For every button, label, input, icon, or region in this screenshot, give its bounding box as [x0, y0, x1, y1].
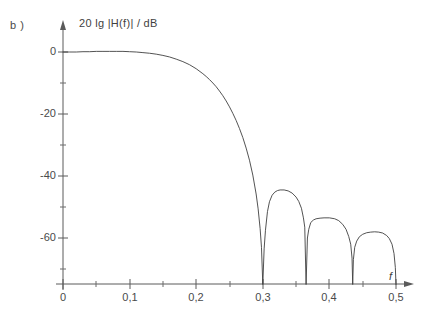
x-tick-label-0-4: 0,4: [309, 291, 349, 303]
x-tick-label-0-1: 0,1: [110, 291, 150, 303]
x-axis: [56, 281, 414, 287]
y-axis: [60, 20, 66, 290]
x-tick-label-0-3: 0,3: [243, 291, 283, 303]
x-tick-label-0-2: 0,2: [176, 291, 216, 303]
figure-panel-b: b ) 20 lg |H(f)| / dB f 0 -20 -40 -60 0 …: [0, 0, 424, 324]
y-tick-label-0: 0: [16, 45, 56, 57]
x-tick-label-0-5: 0,5: [376, 291, 416, 303]
x-tick-label-0: 0: [43, 291, 83, 303]
y-tick-label-minus40: -40: [16, 169, 56, 181]
panel-label: b ): [10, 19, 24, 31]
y-axis-label: 20 lg |H(f)| / dB: [79, 17, 158, 29]
transfer-function-curve: [63, 51, 396, 284]
y-tick-label-minus20: -20: [16, 107, 56, 119]
plot-canvas: [0, 0, 424, 324]
x-axis-label: f: [389, 270, 392, 282]
y-tick-label-minus60: -60: [16, 231, 56, 243]
